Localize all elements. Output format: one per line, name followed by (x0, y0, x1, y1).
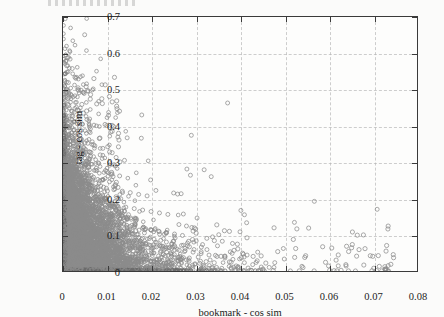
y-tick-label: 0.7 (107, 11, 120, 22)
y-tick-label: 0.5 (107, 84, 120, 95)
x-tick-mark (241, 17, 242, 22)
x-tick-label: 0.04 (231, 291, 249, 302)
x-tick-mark (375, 266, 376, 271)
scatter-plot-figure: 00.010.020.030.040.050.060.070.08 00.10.… (0, 0, 444, 317)
y-tick-mark (63, 236, 68, 237)
y-tick-mark (63, 54, 68, 55)
y-tick-mark (63, 200, 68, 201)
y-tick-label: 0.6 (107, 47, 120, 58)
x-tick-mark (330, 266, 331, 271)
x-tick-label: 0.02 (142, 291, 160, 302)
plot-area-wrapper: 00.010.020.030.040.050.060.070.08 00.10.… (62, 16, 418, 272)
y-tick-label: 0.2 (107, 193, 120, 204)
x-tick-mark (375, 17, 376, 22)
y-tick-mark (63, 17, 68, 18)
x-tick-mark (330, 17, 331, 22)
y-tick-mark (412, 236, 417, 237)
x-tick-label: 0.05 (275, 291, 293, 302)
x-tick-label: 0.07 (364, 291, 382, 302)
x-tick-label: 0.01 (97, 291, 115, 302)
x-tick-mark (108, 266, 109, 271)
x-tick-mark (152, 266, 153, 271)
x-tick-mark (197, 266, 198, 271)
x-tick-mark (63, 266, 64, 271)
x-tick-mark (286, 17, 287, 22)
y-tick-mark (412, 90, 417, 91)
x-tick-mark (152, 17, 153, 22)
y-tick-label: 0.1 (107, 230, 120, 241)
x-tick-label: 0 (59, 291, 64, 302)
x-tick-label: 0.08 (409, 291, 427, 302)
y-tick-mark (412, 127, 417, 128)
y-tick-mark (63, 127, 68, 128)
y-tick-label: 0 (115, 267, 120, 278)
y-tick-mark (412, 200, 417, 201)
x-tick-label: 0.06 (320, 291, 338, 302)
x-tick-mark (197, 17, 198, 22)
y-axis-title: tag - cos sim (73, 0, 84, 278)
y-tick-mark (412, 163, 417, 164)
cropped-caption-fragment (48, 0, 138, 6)
x-axis-title: bookmark - cos sim (62, 307, 418, 317)
y-tick-mark (412, 54, 417, 55)
y-tick-label: 0.3 (107, 157, 120, 168)
x-tick-mark (286, 266, 287, 271)
y-tick-mark (412, 17, 417, 18)
y-tick-mark (63, 90, 68, 91)
y-tick-label: 0.4 (107, 120, 120, 131)
x-tick-label: 0.03 (186, 291, 204, 302)
x-tick-mark (241, 266, 242, 271)
y-tick-mark (63, 163, 68, 164)
